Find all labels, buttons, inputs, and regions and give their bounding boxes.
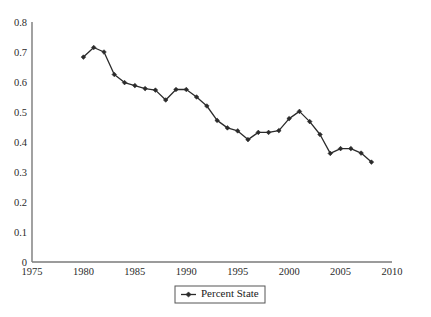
y-tick-label: 0.8 (14, 17, 27, 28)
x-tick-label: 1985 (124, 266, 145, 277)
x-tick-label: 2010 (382, 266, 403, 277)
legend-label: Percent State (201, 287, 259, 299)
x-tick-label: 1995 (227, 266, 248, 277)
y-tick-label: 0.6 (14, 77, 27, 88)
y-axis-tick-labels: 00.10.20.30.40.50.60.70.8 (14, 17, 28, 268)
y-tick-label: 0.2 (14, 197, 27, 208)
y-tick-label: 0.3 (14, 167, 27, 178)
x-tick-label: 1980 (73, 266, 94, 277)
x-tick-label: 1975 (22, 266, 43, 277)
x-tick-label: 2005 (330, 266, 351, 277)
data-point-marker (143, 86, 148, 91)
data-point-marker (349, 146, 354, 151)
data-series-layer (81, 45, 374, 164)
series-percent-state (81, 45, 374, 164)
data-point-marker (266, 130, 271, 135)
y-tick-label: 0.7 (14, 47, 27, 58)
x-tick-label: 2000 (279, 266, 300, 277)
data-point-marker (102, 50, 107, 55)
y-tick-label: 0.1 (14, 227, 27, 238)
data-point-marker (133, 83, 138, 88)
data-point-marker (338, 146, 343, 151)
series-line (83, 48, 371, 163)
y-tick-label: 0.4 (14, 137, 28, 148)
y-tick-label: 0.5 (14, 107, 27, 118)
chart-figure: 00.10.20.30.40.50.60.70.8 19751980198519… (0, 0, 431, 317)
x-axis-tick-labels: 19751980198519901995200020052010 (22, 266, 403, 277)
chart-legend: Percent State (175, 286, 265, 303)
line-chart: 00.10.20.30.40.50.60.70.8 19751980198519… (0, 0, 431, 317)
x-tick-label: 1990 (176, 266, 197, 277)
